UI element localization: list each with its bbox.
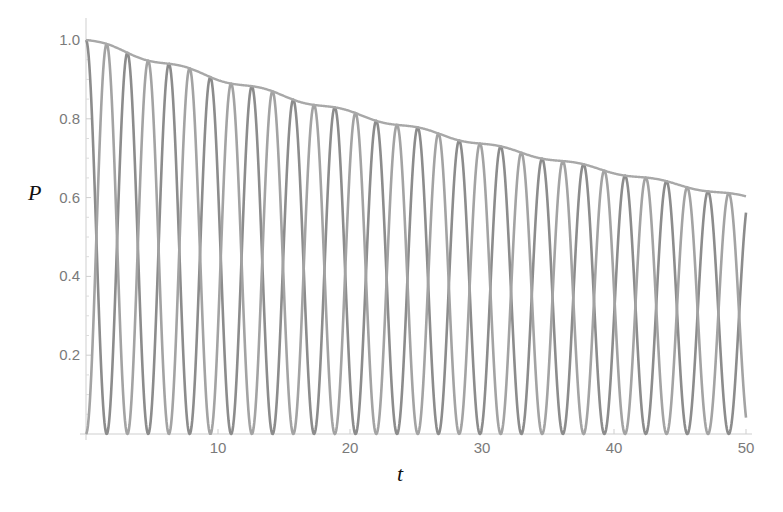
x-tick-label: 40 (606, 439, 623, 456)
plot-area: 1020304050 0.20.40.60.81.0 (59, 18, 754, 456)
y-tick-label: 0.6 (59, 189, 80, 206)
x-tick-label: 30 (474, 439, 491, 456)
x-tick-label: 50 (738, 439, 755, 456)
y-tick-label: 0.2 (59, 346, 80, 363)
y-tick-label: 0.4 (59, 267, 80, 284)
y-tick-label: 1.0 (59, 31, 80, 48)
x-tick-label: 10 (210, 439, 227, 456)
series-layer (86, 40, 746, 434)
y-tick-label: 0.8 (59, 110, 80, 127)
x-axis-label: t (397, 461, 404, 486)
chart: 1020304050 0.20.40.60.81.0 P t (0, 0, 783, 512)
y-axis-label: P (27, 180, 41, 205)
x-tick-label: 20 (342, 439, 359, 456)
